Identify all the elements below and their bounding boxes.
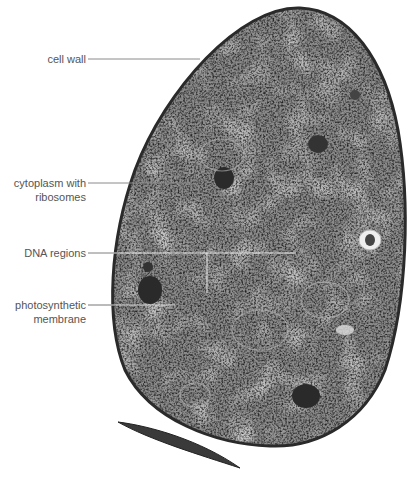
label-cell-wall: cell wall bbox=[47, 52, 86, 66]
label-dna-regions: DNA regions bbox=[24, 246, 86, 260]
label-text: DNA regions bbox=[24, 247, 86, 259]
label-photosynthetic-membrane: photosynthetic membrane bbox=[15, 298, 86, 326]
label-text-line1: cytoplasm with bbox=[14, 176, 86, 190]
label-cytoplasm: cytoplasm with ribosomes bbox=[14, 176, 86, 204]
inclusion bbox=[308, 135, 328, 153]
cell-body bbox=[100, 0, 417, 460]
label-text: cell wall bbox=[47, 53, 86, 65]
label-text-line2: ribosomes bbox=[14, 190, 86, 204]
cell-micrograph bbox=[0, 0, 417, 480]
label-text-line1: photosynthetic bbox=[15, 298, 86, 312]
label-text-line2: membrane bbox=[15, 312, 86, 326]
micrograph-figure: cell wall cytoplasm with ribosomes DNA r… bbox=[0, 0, 417, 480]
